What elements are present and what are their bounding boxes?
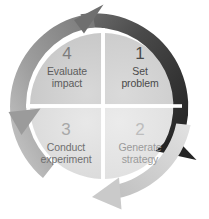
cycle-diagram: 1 Set problem 2 Generate strategy 3 Cond… (0, 0, 209, 219)
right-to-bottom-left-arrowhead (92, 178, 122, 210)
cycle-diagram-graphic (0, 0, 209, 219)
